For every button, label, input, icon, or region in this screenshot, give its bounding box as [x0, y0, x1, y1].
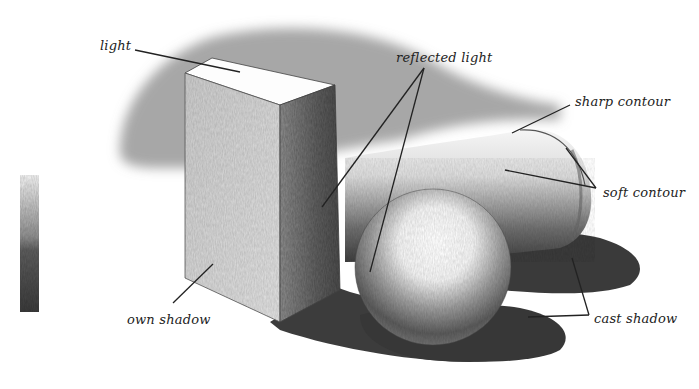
- label-light: light: [100, 38, 131, 53]
- sphere: [355, 189, 511, 345]
- label-own-shadow: own shadow: [127, 312, 211, 327]
- shading-diagram: light reflected light sharp contour soft…: [0, 0, 699, 389]
- label-reflected-light: reflected light: [396, 50, 492, 65]
- box: [185, 58, 340, 322]
- label-cast-shadow: cast shadow: [594, 311, 677, 326]
- label-sharp-contour: sharp contour: [575, 94, 670, 109]
- label-soft-contour: soft contour: [603, 185, 685, 200]
- pencil-drawing: [0, 0, 699, 389]
